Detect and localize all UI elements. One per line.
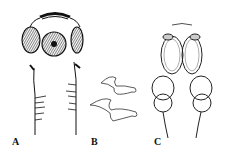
panel-label-b: B — [91, 136, 98, 147]
panel-a-scolex — [22, 14, 83, 136]
panel-label-a: A — [12, 136, 19, 147]
panel-c-suckers — [152, 24, 212, 139]
figure-canvas — [0, 0, 227, 159]
panel-b-hooks — [90, 77, 137, 121]
panel-label-c: C — [154, 136, 161, 147]
